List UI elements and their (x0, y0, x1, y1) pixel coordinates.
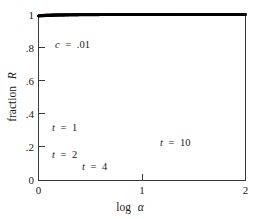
y-tick-label-3: .6 (26, 75, 35, 87)
y-axis-title-main: fraction (6, 86, 18, 122)
plot-canvas: 0 .2 .4 .6 .8 1 0 1 2 fraction R log α (0, 0, 260, 219)
annot-t2-eq: = (61, 149, 67, 160)
y-axis-title-symbol: R (6, 72, 18, 80)
y-tick-label-5: 1 (29, 9, 35, 21)
x-axis-title-symbol: α (138, 201, 145, 213)
svg-text:log α: log α (116, 201, 145, 214)
annot-t4-eq: = (91, 161, 97, 172)
annot-t4-val: 4 (102, 161, 108, 172)
annot-t10-var: t (160, 137, 164, 148)
annotation-t2: t = 2 (52, 149, 77, 160)
annot-c-var: c (55, 39, 60, 50)
annot-t10-val: 10 (180, 137, 191, 148)
svg-text:t = 1: t = 1 (52, 122, 77, 133)
annot-t1-var: t (52, 122, 56, 133)
annot-c-val: .01 (77, 39, 90, 50)
annot-t10-eq: = (169, 137, 175, 148)
annot-t1-eq: = (61, 122, 67, 133)
y-tick-label-0: 0 (29, 174, 35, 186)
svg-text:t = 2: t = 2 (52, 149, 77, 160)
y-tick-marks (39, 15, 45, 181)
y-tick-labels: 0 .2 .4 .6 .8 1 (26, 9, 35, 187)
svg-text:t = 10: t = 10 (160, 137, 191, 148)
x-tick-label-1: 1 (139, 184, 145, 196)
annotation-t4: t = 4 (82, 161, 108, 172)
x-axis-title-main: log (116, 201, 131, 214)
curve-group (39, 15, 246, 17)
annotation-t1: t = 1 (52, 122, 77, 133)
annot-t2-var: t (52, 149, 56, 160)
x-tick-label-0: 0 (36, 184, 42, 196)
x-tick-labels: 0 1 2 (36, 184, 249, 196)
x-tick-marks (39, 174, 246, 180)
annot-t1-val: 1 (72, 122, 77, 133)
annotation-c-param: c = .01 (55, 39, 90, 50)
annot-c-eq: = (65, 39, 71, 50)
annot-t2-val: 2 (72, 149, 77, 160)
y-tick-label-2: .4 (26, 108, 35, 120)
svg-text:c = .01: c = .01 (55, 39, 90, 50)
y-axis-title: fraction R (6, 72, 18, 122)
annotation-t10: t = 10 (160, 137, 191, 148)
y-tick-label-1: .2 (26, 141, 34, 153)
chart-figure: 0 .2 .4 .6 .8 1 0 1 2 fraction R log α (0, 0, 260, 219)
x-tick-label-2: 2 (243, 184, 249, 196)
svg-text:fraction R: fraction R (6, 72, 18, 122)
annot-t4-var: t (82, 161, 86, 172)
y-tick-label-4: .8 (26, 42, 35, 54)
svg-text:t = 4: t = 4 (82, 161, 108, 172)
x-axis-title: log α (116, 201, 145, 214)
